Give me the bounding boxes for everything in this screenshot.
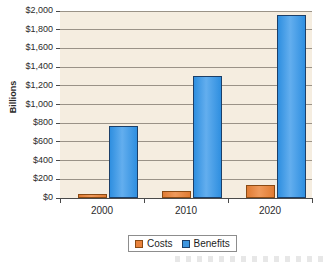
y-tick-mark xyxy=(56,160,60,161)
y-tick-label: $400 xyxy=(7,155,53,165)
y-tick-label: $600 xyxy=(7,136,53,146)
legend-label-benefits: Benefits xyxy=(194,238,230,249)
chart-legend: Costs Benefits xyxy=(128,235,237,252)
bar-benefits-2000 xyxy=(109,126,138,198)
gridline xyxy=(60,85,312,86)
x-tick-label-2000: 2000 xyxy=(72,205,132,216)
legend-entry-costs: Costs xyxy=(135,238,173,249)
gridline xyxy=(60,29,312,30)
y-tick-mark xyxy=(56,67,60,68)
gridline xyxy=(60,123,312,124)
y-tick-label: $1,600 xyxy=(7,42,53,52)
y-tick-label: $2,000 xyxy=(7,5,53,15)
gridline xyxy=(60,48,312,49)
y-tick-label: $1,200 xyxy=(7,80,53,90)
scan-artifact xyxy=(175,256,325,262)
y-tick-mark xyxy=(56,48,60,49)
y-tick-mark xyxy=(56,179,60,180)
y-tick-label: $200 xyxy=(7,173,53,183)
y-tick-mark xyxy=(56,11,60,12)
plot-area xyxy=(60,11,312,198)
bar-costs-2020 xyxy=(246,185,275,198)
x-tick-mark xyxy=(60,198,61,203)
x-axis-line xyxy=(60,198,312,199)
legend-label-costs: Costs xyxy=(147,238,173,249)
gridline xyxy=(60,141,312,142)
y-tick-label: $1,400 xyxy=(7,61,53,71)
bar-benefits-2010 xyxy=(193,76,222,198)
y-tick-mark xyxy=(56,85,60,86)
x-tick-mark xyxy=(312,198,313,203)
legend-swatch-costs-icon xyxy=(135,240,143,248)
legend-entry-benefits: Benefits xyxy=(182,238,230,249)
y-tick-label: $1,800 xyxy=(7,24,53,34)
bar-benefits-2020 xyxy=(277,15,306,198)
y-tick-label: $0 xyxy=(7,192,53,202)
gridline xyxy=(60,11,312,12)
x-tick-mark xyxy=(228,198,229,203)
y-tick-mark xyxy=(56,104,60,105)
gridline xyxy=(60,104,312,105)
gridline xyxy=(60,67,312,68)
y-tick-mark xyxy=(56,123,60,124)
y-tick-label: $1,000 xyxy=(7,99,53,109)
y-tick-mark xyxy=(56,29,60,30)
x-tick-mark xyxy=(144,198,145,203)
gridline xyxy=(60,179,312,180)
gridline xyxy=(60,160,312,161)
x-tick-label-2020: 2020 xyxy=(240,205,300,216)
legend-swatch-benefits-icon xyxy=(182,240,190,248)
x-tick-label-2010: 2010 xyxy=(156,205,216,216)
y-tick-label: $800 xyxy=(7,117,53,127)
y-tick-mark xyxy=(56,141,60,142)
bar-chart-figure: Billions Costs Benefits $0$200$400$600$8… xyxy=(0,0,335,263)
